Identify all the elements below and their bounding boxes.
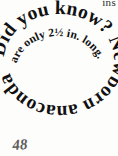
- spiral-inner-textpath: are only 2½ in. long.: [7, 26, 107, 65]
- spiral-inner-text: are only 2½ in. long.: [7, 26, 107, 65]
- spiral-text-svg: Did you know? Newborn anacondas are only…: [0, 8, 118, 126]
- spiral-fact-callout: Did you know? Newborn anacondas are only…: [0, 8, 118, 126]
- running-head-fragment: ins: [102, 0, 116, 6]
- book-page: ins Did you know? Newborn anacondas are …: [0, 0, 118, 156]
- page-number: 48: [12, 136, 28, 154]
